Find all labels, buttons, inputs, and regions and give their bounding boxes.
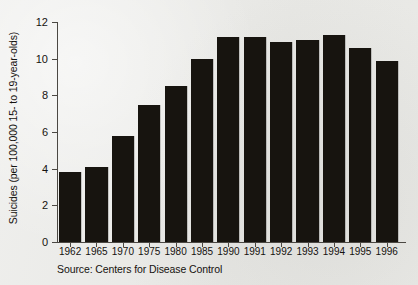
x-axis-tick-label: 1994 [323,247,345,257]
y-axis-tick [52,205,57,206]
y-axis-tick [52,95,57,96]
bar-chart-figure: Suicides (per 100,000 15- to 19-year-old… [0,0,418,285]
bar [217,37,239,242]
y-axis-tick-label: 8 [42,90,48,101]
y-axis-tick-label: 2 [42,200,48,211]
x-axis-tick-label: 1985 [191,247,213,257]
x-axis-tick-label: 1970 [112,247,134,257]
bar [323,35,345,242]
x-axis-tick-label: 1991 [244,247,266,257]
y-axis-tick-label: 10 [36,53,48,64]
bar [376,61,398,243]
y-axis-tick-label: 0 [42,237,48,248]
source-note: Source: Centers for Disease Control [57,263,222,275]
bar [191,59,213,242]
y-axis-tick-label: 12 [36,17,48,28]
y-axis-tick [52,169,57,170]
x-axis-tick-label: 1993 [296,247,318,257]
x-axis-tick-label: 1996 [376,247,398,257]
x-axis-tick-label: 1975 [138,247,160,257]
y-axis-tick [52,132,57,133]
x-axis-tick-label: 1965 [85,247,107,257]
bar [244,37,266,242]
y-axis-tick [52,242,57,243]
x-axis-tick-label: 1962 [59,247,81,257]
bar [112,136,134,242]
x-axis-tick-label: 1992 [270,247,292,257]
x-axis-tick-label: 1990 [217,247,239,257]
bar [59,172,81,242]
y-axis-tick [52,59,57,60]
y-axis-tick [52,22,57,23]
bar [138,105,160,243]
y-axis-line [57,22,58,243]
bar [85,167,107,242]
y-axis-title: Suicides (per 100,000 15- to 19-year-old… [2,3,24,253]
plot-area: 0246810121962196519701975198019851990199… [57,22,406,243]
bar [296,40,318,242]
x-axis-tick-label: 1995 [349,247,371,257]
x-axis-tick-label: 1980 [165,247,187,257]
y-axis-tick-label: 6 [42,127,48,138]
y-axis-tick-label: 4 [42,163,48,174]
bar [270,42,292,242]
bar [165,86,187,242]
bar [349,48,371,242]
x-axis-line [57,242,406,243]
